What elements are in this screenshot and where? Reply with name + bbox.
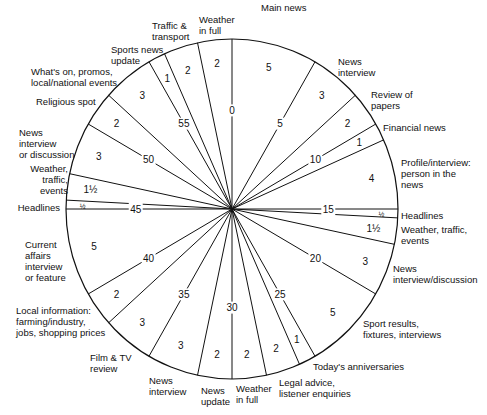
label-financial-news: Financial news [383, 122, 446, 133]
label-weather-in-full-58: Weather in full [199, 14, 235, 36]
label-film-tv-review: Film & TV review [90, 352, 132, 374]
segment-duration: 2 [114, 289, 120, 300]
segment-divider [232, 209, 376, 294]
segment-duration: 2 [273, 343, 279, 354]
minute-tick-label: 50 [143, 154, 155, 165]
segment-duration: 3 [96, 151, 102, 162]
label-main-news: Main news [261, 2, 306, 13]
segment-divider [232, 209, 300, 364]
segment-duration: 2 [244, 349, 250, 360]
minute-tick-label: 20 [310, 253, 322, 264]
segment-duration: 5 [91, 241, 97, 252]
segment-duration: 3 [139, 317, 145, 328]
segment-duration: 1 [164, 73, 170, 84]
segment-duration: 5 [330, 307, 336, 318]
segment-divider [149, 209, 232, 356]
minute-tick-label: 5 [277, 118, 283, 129]
segment-duration: 2 [214, 58, 220, 69]
segment-duration: 5 [266, 62, 272, 73]
minute-tick-label: 10 [310, 154, 322, 165]
minute-tick-label: 45 [130, 204, 142, 215]
segment-duration: 3 [139, 90, 145, 101]
label-review-of-papers: Review of papers [371, 89, 413, 111]
segment-divider [149, 62, 232, 209]
segment-duration: 2 [114, 118, 120, 129]
label-news-interview-32: News interview [149, 375, 187, 397]
segment-divider [109, 209, 232, 323]
label-legal-advice: Legal advice, listener enquiries [279, 377, 351, 399]
label-sport-results: Sport results, fixtures, interviews [363, 318, 441, 340]
segment-divider [232, 124, 376, 209]
segment-divider [66, 200, 232, 209]
segment-divider [232, 209, 398, 218]
segment-divider [232, 95, 355, 209]
label-weather-traffic-15: Weather, traffic, events [401, 224, 467, 246]
label-profile-interview: Profile/interview: person in the news [401, 157, 471, 190]
minute-tick-label: 15 [323, 204, 335, 215]
segment-duration: 1 [356, 137, 362, 148]
label-headlines-45: Headlines [2, 202, 60, 213]
label-news-interview-or-discussion: News interview or discussion [19, 127, 74, 160]
label-religious-spot: Religious spot [36, 96, 96, 107]
minute-tick-label: 40 [143, 253, 155, 264]
segment-divider [232, 62, 315, 209]
minute-tick-label: 35 [178, 289, 190, 300]
segment-duration: 1 [294, 334, 300, 345]
minute-tick-label: 25 [275, 289, 287, 300]
label-headlines-15: Headlines [401, 210, 443, 221]
segment-divider [88, 124, 232, 209]
label-traffic-transport: Traffic & transport [152, 20, 190, 42]
label-sports-news-update: Sports news update [111, 44, 163, 66]
segment-duration: 1½ [367, 223, 382, 234]
segment-duration: 4 [369, 173, 375, 184]
label-news-update: News update [201, 385, 230, 407]
label-news-interview: News interview [338, 56, 376, 78]
label-weather-traffic-45: Weather, traffic, events [2, 163, 68, 196]
hour-clock-diagram: 051015202530354045505553214½1½3512223325… [0, 0, 487, 415]
label-weather-in-full-28: Weather in full [236, 383, 272, 405]
segment-divider [88, 209, 232, 294]
segment-divider [165, 54, 233, 209]
minute-tick-label: 0 [229, 105, 235, 116]
segment-divider [232, 140, 384, 209]
minute-tick-label: 30 [226, 302, 238, 313]
segment-duration: ½ [80, 203, 86, 210]
segment-duration: 2 [345, 118, 351, 129]
segment-duration: 3 [178, 340, 184, 351]
segment-duration: ½ [378, 211, 384, 218]
segment-duration: 1½ [84, 184, 99, 195]
segment-divider [232, 209, 315, 356]
label-local-information: Local information: farming/industry, job… [16, 305, 105, 338]
label-news-interview-discussion: News interview/discussion [393, 263, 477, 285]
label-whats-on: What's on, promos, local/national events [31, 66, 117, 88]
minute-tick-label: 55 [178, 118, 190, 129]
segment-duration: 3 [319, 90, 325, 101]
segment-duration: 3 [363, 256, 369, 267]
segment-divider [109, 95, 232, 209]
segment-duration: 2 [214, 349, 220, 360]
label-current-affairs: Current affairs interview or feature [25, 239, 66, 283]
label-todays-anniversaries: Today's anniversaries [313, 361, 404, 372]
segment-duration: 2 [185, 65, 191, 76]
